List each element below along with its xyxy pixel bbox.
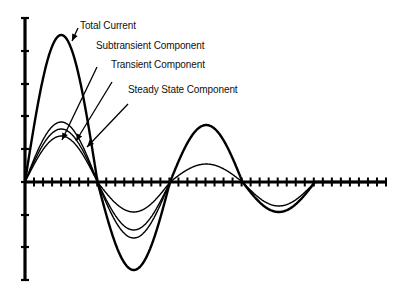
label-total-current: Total Current <box>80 20 136 31</box>
curve-total-current <box>25 35 386 270</box>
axes <box>21 18 386 280</box>
label-steady-state-component: Steady State Component <box>128 84 238 95</box>
current-curves <box>25 35 386 270</box>
label-subtransient-component: Subtransient Component <box>96 40 204 51</box>
label-transient-component: Transient Component <box>111 59 205 70</box>
